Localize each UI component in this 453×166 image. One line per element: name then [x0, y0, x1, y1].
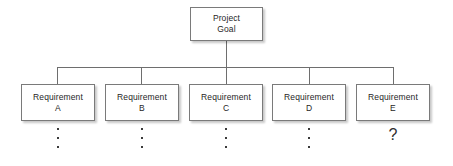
node-requirement-a: Requirement A	[21, 84, 95, 121]
node-requirement-b-line2: B	[139, 103, 145, 114]
node-requirement-b: Requirement B	[105, 84, 179, 121]
node-requirement-c-line2: C	[223, 103, 229, 114]
node-requirement-d: Requirement D	[272, 84, 346, 121]
node-requirement-e-line2: E	[390, 103, 396, 114]
connector-drop-requirement-a	[57, 67, 58, 84]
node-requirement-e-line1: Requirement	[368, 92, 418, 103]
question-mark-requirement-e: ?	[381, 126, 405, 144]
node-requirement-e: Requirement E	[356, 84, 430, 121]
node-project-goal: Project Goal	[190, 7, 263, 41]
node-requirement-a-line1: Requirement	[33, 92, 83, 103]
node-requirement-d-line1: Requirement	[284, 92, 334, 103]
connector-drop-requirement-c	[226, 67, 227, 84]
connector-drop-requirement-e	[393, 67, 394, 84]
connector-drop-requirement-b	[141, 67, 142, 84]
vertical-ellipsis-icon-requirement-a	[46, 128, 70, 148]
node-project-goal-line1: Project	[213, 13, 240, 24]
node-requirement-c: Requirement C	[189, 84, 263, 121]
node-requirement-a-line2: A	[55, 103, 61, 114]
node-project-goal-line2: Goal	[217, 24, 235, 35]
node-requirement-d-line2: D	[306, 103, 312, 114]
hierarchy-diagram: Project Goal Requirement A Requirement B…	[0, 0, 453, 166]
vertical-ellipsis-icon-requirement-c	[214, 128, 238, 148]
node-requirement-c-line1: Requirement	[201, 92, 251, 103]
connector-root-stem	[226, 41, 227, 68]
connector-drop-requirement-d	[309, 67, 310, 84]
node-requirement-b-line1: Requirement	[117, 92, 167, 103]
vertical-ellipsis-icon-requirement-b	[130, 128, 154, 148]
question-mark-glyph: ?	[389, 126, 398, 144]
vertical-ellipsis-icon-requirement-d	[297, 128, 321, 148]
